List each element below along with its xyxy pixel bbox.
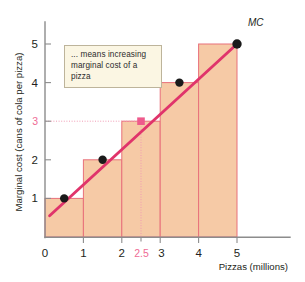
- x-tick-label-3: 3: [158, 247, 164, 259]
- mc-marker-3: [175, 78, 183, 86]
- x-tick-label-2: 2: [119, 247, 125, 259]
- x-tick-label-0: 0: [42, 247, 48, 259]
- bar-3-4: [160, 83, 198, 237]
- bar-1-2: [83, 160, 121, 237]
- y-tick-label-5: 5: [32, 38, 38, 50]
- y-tick-label-1: 1: [32, 192, 38, 204]
- marginal-cost-chart-svg: 5 4 3 2 1 0 1 2 2.5 3 4 5 Pizzas (millio…: [0, 0, 305, 282]
- callout-text: ... means increasing marginal cost of a …: [71, 50, 146, 81]
- mc-marker-1: [98, 156, 106, 164]
- x-tick-label-1: 1: [80, 247, 86, 259]
- mc-marker-highlight: [137, 117, 145, 125]
- y-tick-label-3: 3: [32, 115, 38, 127]
- x-tick-labels: 0 1 2 2.5 3 4 5: [42, 247, 240, 259]
- x-tick-label-2-5: 2.5: [134, 247, 149, 259]
- y-tick-label-4: 4: [32, 77, 39, 89]
- y-tick-labels: 5 4 3 2 1: [32, 38, 39, 204]
- mc-series-label: MC: [248, 17, 264, 28]
- mc-marker-4: [232, 39, 241, 48]
- chart-figure: 5 4 3 2 1 0 1 2 2.5 3 4 5 Pizzas (millio…: [0, 0, 305, 282]
- y-tick-label-2: 2: [32, 154, 38, 166]
- x-tick-label-4: 4: [195, 247, 202, 259]
- mc-marker-0: [60, 194, 68, 202]
- x-tick-label-5: 5: [234, 247, 240, 259]
- x-axis-title: Pizzas (millions): [219, 261, 288, 272]
- callout-annotation: ... means increasing marginal cost of a …: [64, 45, 162, 88]
- y-axis-title: Marginal cost (cans of cola per pizza): [13, 53, 24, 212]
